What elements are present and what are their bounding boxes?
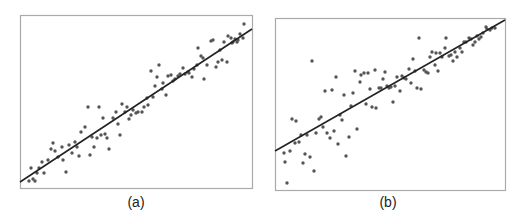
data-point bbox=[293, 141, 296, 144]
data-point bbox=[330, 88, 333, 91]
data-point bbox=[364, 102, 367, 105]
data-point bbox=[49, 147, 52, 150]
panel-label-b: (b) bbox=[368, 194, 408, 210]
data-point bbox=[107, 147, 110, 150]
data-point bbox=[216, 60, 219, 63]
data-point bbox=[205, 63, 208, 66]
data-point bbox=[312, 169, 315, 172]
data-point bbox=[229, 36, 232, 39]
data-point bbox=[323, 89, 326, 92]
data-point bbox=[211, 38, 214, 41]
data-point bbox=[449, 53, 452, 56]
data-point bbox=[391, 100, 394, 103]
data-point bbox=[411, 57, 414, 60]
scatter-plot-b bbox=[275, 19, 506, 191]
data-point bbox=[373, 68, 376, 71]
data-point bbox=[114, 110, 117, 113]
data-point bbox=[368, 87, 371, 90]
data-point bbox=[398, 89, 401, 92]
plot-frame bbox=[21, 16, 253, 189]
data-point bbox=[308, 155, 311, 158]
data-point bbox=[301, 161, 304, 164]
data-point bbox=[129, 113, 132, 116]
data-point bbox=[118, 133, 121, 136]
panel-label-a: (a) bbox=[116, 194, 156, 210]
data-point bbox=[181, 66, 184, 69]
data-point bbox=[351, 91, 354, 94]
data-point bbox=[434, 51, 437, 54]
data-point bbox=[342, 93, 345, 96]
data-point bbox=[42, 171, 45, 174]
data-point bbox=[103, 132, 106, 135]
data-point bbox=[29, 166, 32, 169]
data-point bbox=[297, 140, 300, 143]
data-point bbox=[83, 125, 86, 128]
data-point bbox=[436, 69, 439, 72]
data-point bbox=[70, 151, 73, 154]
data-point bbox=[99, 133, 102, 136]
data-point bbox=[46, 158, 49, 161]
data-point bbox=[409, 81, 412, 84]
data-point bbox=[53, 149, 56, 152]
data-point bbox=[332, 129, 335, 132]
data-point bbox=[214, 65, 217, 68]
data-point bbox=[319, 115, 322, 118]
data-point bbox=[395, 75, 398, 78]
data-point bbox=[473, 40, 476, 43]
data-point bbox=[438, 51, 441, 54]
data-point bbox=[283, 160, 286, 163]
data-point bbox=[27, 179, 30, 182]
data-point bbox=[443, 46, 446, 49]
data-point bbox=[64, 170, 67, 173]
figure: (a) (b) bbox=[0, 0, 526, 219]
data-point bbox=[127, 117, 130, 120]
data-point bbox=[370, 105, 373, 108]
data-point bbox=[344, 154, 347, 157]
data-point bbox=[455, 55, 458, 58]
data-point bbox=[334, 75, 337, 78]
data-point bbox=[220, 58, 223, 61]
data-point bbox=[95, 136, 98, 139]
data-point bbox=[290, 117, 293, 120]
data-point bbox=[51, 141, 54, 144]
data-point bbox=[73, 140, 76, 143]
data-point bbox=[314, 131, 317, 134]
data-point bbox=[353, 69, 356, 72]
data-point bbox=[325, 131, 328, 134]
data-point bbox=[310, 59, 313, 62]
scatter-plots-canvas bbox=[0, 0, 526, 219]
data-point bbox=[196, 46, 199, 49]
data-point bbox=[426, 71, 429, 74]
data-point bbox=[407, 67, 410, 70]
data-point bbox=[142, 105, 145, 108]
data-point bbox=[358, 80, 361, 83]
data-point bbox=[161, 81, 164, 84]
data-point bbox=[471, 43, 474, 46]
data-point bbox=[415, 86, 418, 89]
data-point bbox=[381, 77, 384, 80]
data-point bbox=[40, 160, 43, 163]
data-point bbox=[190, 75, 193, 78]
data-point bbox=[479, 35, 482, 38]
data-point bbox=[92, 145, 95, 148]
data-point bbox=[285, 181, 288, 184]
data-point bbox=[453, 50, 456, 53]
scatter-plot-a bbox=[20, 16, 253, 189]
data-point bbox=[393, 84, 396, 87]
data-point bbox=[444, 36, 447, 39]
data-point bbox=[166, 74, 169, 77]
data-point bbox=[67, 143, 70, 146]
data-point bbox=[433, 63, 436, 66]
data-point bbox=[294, 119, 297, 122]
data-point bbox=[362, 71, 365, 74]
data-point bbox=[336, 142, 339, 145]
data-point bbox=[241, 36, 244, 39]
data-point bbox=[120, 102, 123, 105]
data-point bbox=[355, 127, 358, 130]
data-point bbox=[157, 63, 160, 66]
data-point bbox=[125, 105, 128, 108]
data-point bbox=[359, 73, 362, 76]
data-point bbox=[136, 110, 139, 113]
data-point bbox=[101, 116, 104, 119]
data-point bbox=[61, 158, 64, 161]
